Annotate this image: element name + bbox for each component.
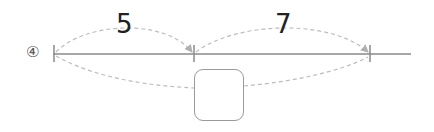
segment-label-5: 5 [116,11,133,37]
lower-arc-left [56,56,194,88]
problem-number-marker: ④ [26,45,39,60]
lower-arc-right [244,57,368,86]
segment-label-7: 7 [275,11,292,37]
answer-box[interactable] [194,69,244,121]
